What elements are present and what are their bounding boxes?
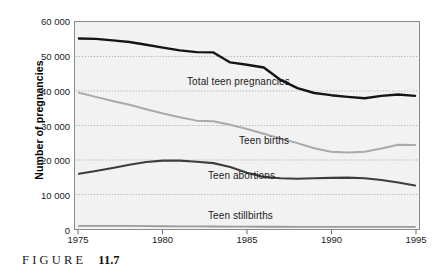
x-tick-label: 1990 (321, 234, 342, 245)
series-label-births: Teen births (239, 135, 289, 146)
y-tick-label: 60 000 (4, 16, 70, 27)
series-line-total (79, 39, 415, 99)
series-label-stillbirths: Teen stillbirths (208, 210, 273, 221)
y-tick-label: 20 000 (4, 155, 70, 166)
x-tick-label: 1985 (236, 234, 257, 245)
figure-caption-number: 11.7 (98, 253, 119, 268)
x-tick-label: 1995 (405, 234, 426, 245)
series-line-stillbirths (79, 226, 415, 227)
y-axis-tick-labels: 60 000 50 000 40 000 30 000 20 000 10 00… (0, 21, 70, 230)
chart-canvas (75, 22, 419, 229)
x-axis-tick-labels: 1975 1980 1985 1990 1995 (0, 234, 439, 250)
y-tick-label: 10 000 (4, 190, 70, 201)
y-tick-label: 50 000 (4, 51, 70, 62)
series-label-total: Total teen pregnancies (187, 76, 290, 87)
y-tick-label: 30 000 (4, 121, 70, 132)
x-tick-label: 1980 (152, 234, 173, 245)
figure-caption-word: FIGURE (22, 253, 86, 268)
figure-container: Number of pregnancies 60 000 50 000 40 0… (0, 0, 439, 277)
x-tick-label: 1975 (67, 234, 88, 245)
plot-area: Total teen pregnancies Teen births Teen … (74, 21, 420, 230)
figure-caption: FIGURE 11.7 (22, 253, 120, 268)
y-tick-label: 40 000 (4, 86, 70, 97)
series-label-abortions: Teen abortions (208, 170, 275, 181)
